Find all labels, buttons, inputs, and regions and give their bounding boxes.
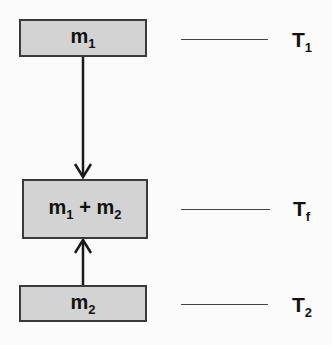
arrow-m2-to-combined bbox=[75, 240, 91, 286]
temperature-line-tf bbox=[181, 209, 270, 210]
temperature-line-t1 bbox=[181, 39, 268, 40]
mass-label-m1: m1 bbox=[70, 25, 95, 51]
arrow-m1-to-combined bbox=[75, 57, 91, 177]
temperature-label-t1: T1 bbox=[292, 28, 312, 55]
mass-box-combined: m1 + m2 bbox=[22, 179, 148, 239]
temperature-label-t2: T2 bbox=[292, 293, 312, 320]
mass-label-m2: m2 bbox=[70, 291, 95, 317]
mass-box-m2: m2 bbox=[19, 285, 147, 322]
temperature-label-tf: Tf bbox=[293, 197, 310, 224]
temperature-line-t2 bbox=[181, 304, 268, 305]
mass-label-combined: m1 + m2 bbox=[49, 196, 122, 222]
mass-box-m1: m1 bbox=[19, 19, 147, 57]
